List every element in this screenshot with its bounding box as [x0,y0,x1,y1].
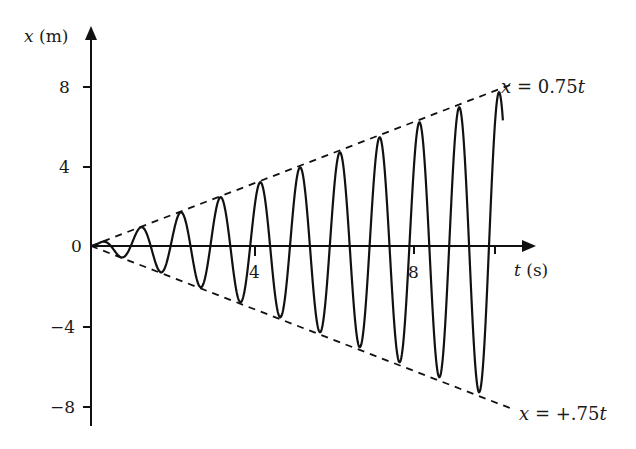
eq-t: t [599,403,606,424]
y-tick-label-neg8: −8 [50,399,75,416]
eq-var: x [519,403,529,424]
lower-envelope-line [91,246,515,410]
y-axis-unit: (m) [39,26,68,46]
lower-envelope-equation: x = +.75t [519,405,607,423]
eq-mid: = +.75 [529,403,599,424]
x-axis-label: t (s) [514,262,548,279]
x-axis-var: t [514,260,521,280]
y-axis-arrow-icon [85,26,97,40]
x-tick-label-8: 8 [408,264,419,281]
upper-envelope-equation: x = 0.75t [501,78,585,96]
eq-var: x [501,76,511,97]
y-tick-label-8: 8 [59,79,70,96]
x-axis-arrow-icon [522,240,536,252]
y-ticks [83,87,91,407]
y-tick-label-neg4: −4 [50,319,75,336]
y-tick-label-0: 0 [71,238,82,255]
upper-envelope-line [91,85,510,246]
chart-canvas [0,0,636,449]
y-axis-label: x (m) [24,28,68,45]
y-tick-label-4: 4 [59,159,70,176]
eq-t: t [578,76,585,97]
eq-mid: = 0.75 [511,76,578,97]
y-axis-var: x [24,26,34,46]
x-tick-label-4: 4 [249,264,260,281]
x-axis-unit: (s) [526,260,548,280]
x-ticks [255,246,495,256]
oscillation-curve [91,92,503,392]
